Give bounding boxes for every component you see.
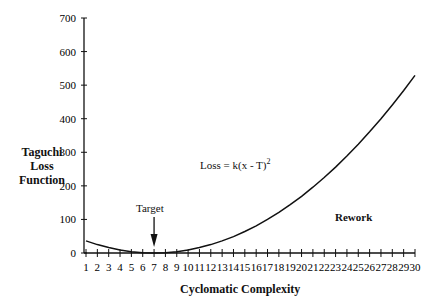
- x-tick-label: 8: [163, 261, 169, 273]
- x-tick-label: 28: [387, 261, 399, 273]
- x-axis-label: Cyclomatic Complexity: [180, 282, 300, 297]
- x-tick-label: 22: [319, 261, 330, 273]
- x-tick-label: 4: [117, 261, 123, 273]
- x-tick-label: 9: [174, 261, 180, 273]
- x-tick-label: 24: [341, 261, 353, 273]
- y-tick-label: 700: [60, 12, 77, 24]
- x-tick-label: 16: [251, 261, 263, 273]
- x-tick-label: 11: [194, 261, 205, 273]
- x-tick-label: 25: [353, 261, 365, 273]
- y-axis-label-line-3: Function: [6, 173, 78, 187]
- x-tick-label: 5: [129, 261, 135, 273]
- x-tick-label: 15: [239, 261, 251, 273]
- x-tick-label: 12: [205, 261, 216, 273]
- x-tick-label: 10: [183, 261, 195, 273]
- x-tick-label: 3: [106, 261, 112, 273]
- x-tick-label: 1: [83, 261, 89, 273]
- y-axis-label-line-1: Taguchi: [6, 145, 78, 159]
- y-tick-label: 400: [60, 113, 77, 125]
- y-tick-label: 500: [60, 79, 77, 91]
- target-annotation: Target: [136, 202, 164, 214]
- x-tick-label: 17: [262, 261, 274, 273]
- y-tick-label: 0: [71, 247, 77, 259]
- y-axis-label-line-2: Loss: [6, 159, 78, 173]
- rework-annotation: Rework: [335, 211, 372, 223]
- x-tick-label: 27: [375, 261, 387, 273]
- x-tick-label: 7: [151, 261, 157, 273]
- x-tick-label: 23: [330, 261, 342, 273]
- x-tick-label: 21: [307, 261, 318, 273]
- x-tick-label: 26: [364, 261, 376, 273]
- x-tick-label: 20: [296, 261, 308, 273]
- formula-text: Loss = k(x - T): [200, 159, 267, 171]
- x-tick-label: 18: [273, 261, 285, 273]
- x-tick-label: 2: [95, 261, 101, 273]
- x-tick-label: 19: [285, 261, 297, 273]
- target-arrow-head-icon: [151, 234, 158, 247]
- y-tick-label: 600: [60, 46, 77, 58]
- y-tick-label: 100: [60, 213, 77, 225]
- formula-annotation: Loss = k(x - T)2: [200, 157, 271, 171]
- x-tick-label: 13: [217, 261, 229, 273]
- y-axis-label: Taguchi Loss Function: [6, 145, 78, 187]
- x-tick-label: 14: [228, 261, 240, 273]
- x-tick-label: 30: [410, 261, 422, 273]
- x-tick-label: 6: [140, 261, 146, 273]
- x-tick-label: 29: [398, 261, 410, 273]
- formula-exponent: 2: [267, 157, 271, 166]
